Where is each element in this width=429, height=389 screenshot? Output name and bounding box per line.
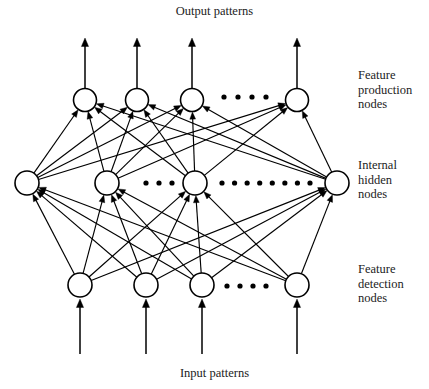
output-arrowhead [133, 38, 140, 47]
network-node-fp-2 [126, 89, 149, 112]
connection-line [99, 110, 186, 175]
connection-line [157, 191, 322, 279]
connection-line [83, 200, 102, 273]
layer-label-line: nodes [358, 97, 428, 112]
connection-line [37, 110, 124, 175]
network-node-fd-3 [190, 273, 214, 297]
network-node-ih-3 [183, 171, 207, 195]
ellipsis-dot [143, 180, 148, 185]
layer-label-line: nodes [358, 291, 428, 306]
connection-arrowhead [148, 105, 156, 110]
input-arrowhead [198, 299, 205, 308]
connection-arrowhead [302, 111, 308, 119]
input-patterns-caption: Input patterns [0, 366, 429, 381]
network-node-ih-n [325, 171, 349, 195]
connection-line [35, 199, 74, 274]
network-node-fp-3 [181, 89, 204, 112]
connection-line [212, 194, 323, 278]
connection-line [111, 116, 131, 171]
ellipsis-dot [221, 94, 226, 99]
layer-label-line: Internal [358, 158, 428, 173]
output-arrowhead [293, 38, 300, 47]
ellipsis-dot [282, 180, 287, 185]
connection-arrowhead [87, 112, 93, 120]
network-node-fp-1 [74, 89, 97, 112]
ellipsis-dot [257, 180, 262, 185]
ellipsis-dot [156, 180, 161, 185]
ellipsis-dot [237, 283, 242, 288]
layer-label-feature-detection: Feature detection nodes [358, 262, 428, 306]
layer-label-line: production [358, 83, 428, 98]
connection-arrowhead [99, 195, 105, 203]
network-node-ih-2 [95, 171, 119, 195]
connection-line [118, 107, 281, 178]
ellipsis-dot [250, 283, 255, 288]
connection-line [301, 200, 330, 274]
connection-line [123, 191, 287, 279]
ellipsis-dot [219, 180, 224, 185]
connection-arrowhead [72, 110, 79, 118]
layer-label-feature-production: Feature production nodes [358, 68, 428, 112]
connection-line [208, 196, 289, 277]
connection-arrowhead [190, 112, 196, 119]
connection-line [207, 109, 326, 177]
network-node-fd-n [285, 273, 309, 297]
edges-detection-to-hidden [33, 187, 333, 281]
connection-arrowhead [33, 194, 39, 202]
ellipsis-dot [263, 283, 268, 288]
connection-arrowhead [193, 195, 199, 202]
ellipsis-dot [224, 283, 229, 288]
connection-arrowhead [202, 106, 210, 112]
connection-line [38, 108, 177, 178]
input-arrowhead [293, 299, 300, 308]
input-arrows [76, 299, 300, 354]
network-node-fd-1 [68, 273, 92, 297]
layer-label-line: detection [358, 277, 428, 292]
connection-line [44, 189, 286, 280]
output-arrowhead [81, 38, 88, 47]
ellipsis-dot [270, 180, 275, 185]
layer-label-line: Feature [358, 68, 428, 83]
layer-label-internal-hidden: Internal hidden nodes [358, 158, 428, 202]
ellipsis-dot [169, 180, 174, 185]
neural-network-diagram: Output patterns Feature production nodes… [0, 0, 429, 389]
input-arrowhead [76, 299, 83, 308]
layer-label-line: nodes [358, 187, 428, 202]
ellipsis-dot [232, 180, 237, 185]
ellipsis-dot [295, 180, 300, 185]
connection-arrowhead [111, 195, 116, 203]
ellipsis-dot [235, 94, 240, 99]
connection-arrowhead [95, 107, 102, 114]
ellipsis-dot [245, 180, 250, 185]
network-node-ih-1 [15, 171, 39, 195]
ellipsis-dot [307, 180, 312, 185]
connection-line [113, 200, 141, 274]
input-arrowhead [142, 299, 149, 308]
output-arrows [81, 38, 300, 88]
connection-arrowhead [144, 110, 151, 118]
connection-line [305, 116, 332, 173]
network-node-fp-n [286, 89, 309, 112]
network-node-fd-2 [134, 273, 158, 297]
ellipsis-dot [263, 94, 268, 99]
output-arrowhead [188, 38, 195, 47]
edges-hidden-to-production [34, 103, 332, 180]
connection-arrowhead [327, 195, 332, 203]
connection-arrowhead [184, 194, 190, 202]
layer-label-line: hidden [358, 173, 428, 188]
connection-line [193, 117, 195, 171]
connection-line [34, 114, 75, 173]
ellipsis-dot [249, 94, 254, 99]
layer-label-line: Feature [358, 262, 428, 277]
